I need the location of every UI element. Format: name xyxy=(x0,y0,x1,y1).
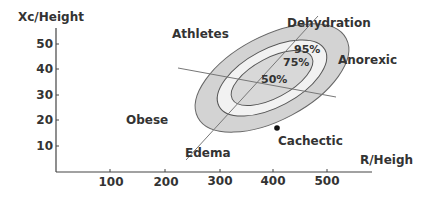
y-tick-label: 50 xyxy=(36,37,53,51)
x-tick-label: 100 xyxy=(98,175,123,189)
label-anorexic: Anorexic xyxy=(338,53,397,67)
label-cachectic: Cachectic xyxy=(278,134,343,148)
cachectic-point xyxy=(274,125,280,131)
label-athletes: Athletes xyxy=(172,27,229,41)
x-tick-label: 300 xyxy=(207,174,232,188)
biva-diagram: 50 40 30 20 10 100 200 300 400 500 Xc/He… xyxy=(0,0,429,197)
x-tick-label: 400 xyxy=(260,174,285,188)
label-75: 75% xyxy=(283,56,309,69)
label-50: 50% xyxy=(261,73,287,86)
y-tick-label: 20 xyxy=(36,113,53,127)
label-obese: Obese xyxy=(126,113,168,127)
x-tick-label: 200 xyxy=(153,175,178,189)
y-tick-label: 30 xyxy=(36,88,53,102)
x-axis-title: R/Heigh xyxy=(360,153,413,167)
label-95: 95% xyxy=(294,43,320,56)
y-tick-label: 40 xyxy=(36,62,53,76)
label-dehydration: Dehydration xyxy=(287,16,371,30)
y-tick-label: 10 xyxy=(36,139,53,153)
label-edema: Edema xyxy=(185,146,231,160)
x-tick-label: 500 xyxy=(314,174,339,188)
y-axis-title: Xc/Height xyxy=(18,10,84,24)
